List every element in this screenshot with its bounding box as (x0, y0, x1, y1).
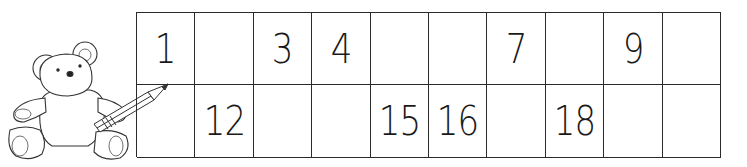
grid-cell[interactable] (663, 13, 721, 85)
grid-cell[interactable] (546, 13, 604, 85)
cell-number: 1 (155, 26, 176, 72)
grid-cell[interactable] (487, 85, 545, 158)
cell-number: 16 (437, 98, 479, 144)
cell-number: 7 (506, 26, 527, 72)
grid-cell[interactable]: 12 (195, 85, 253, 158)
grid-cell[interactable] (429, 13, 487, 85)
grid-cell[interactable]: 15 (371, 85, 429, 158)
cell-number: 9 (622, 26, 643, 72)
cell-number: 12 (203, 98, 245, 144)
grid-cell[interactable]: 4 (312, 13, 370, 85)
grid-cell[interactable] (312, 85, 370, 158)
grid-cell[interactable] (371, 13, 429, 85)
cell-number: 4 (330, 26, 351, 72)
grid-cell[interactable] (137, 85, 195, 158)
cell-number: 15 (379, 98, 421, 144)
grid-cell[interactable]: 1 (137, 13, 195, 85)
grid-cell[interactable]: 9 (604, 13, 662, 85)
grid-cell[interactable] (254, 85, 312, 158)
cell-number: 18 (554, 98, 596, 144)
cell-number: 3 (272, 26, 293, 72)
grid-cell[interactable] (663, 85, 721, 158)
grid-cell[interactable]: 18 (546, 85, 604, 158)
number-grid: 1 3 4 7 9 12 15 16 18 (136, 12, 721, 157)
grid-cell[interactable]: 16 (429, 85, 487, 158)
grid-cell[interactable]: 7 (487, 13, 545, 85)
grid-cell[interactable] (195, 13, 253, 85)
grid-cell[interactable]: 3 (254, 13, 312, 85)
grid-cell[interactable] (604, 85, 662, 158)
